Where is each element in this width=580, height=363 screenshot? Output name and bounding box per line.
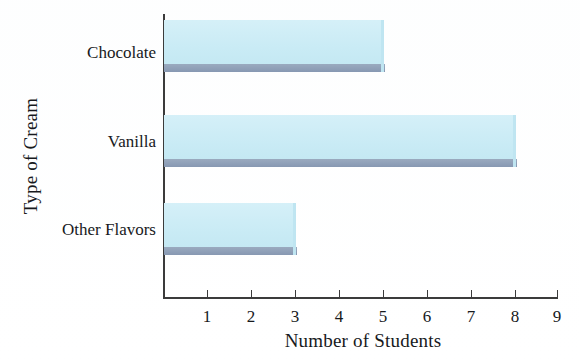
bar-other-flavors-cap: [293, 203, 296, 255]
category-label-chocolate: Chocolate: [36, 44, 156, 61]
x-tick-2: [251, 290, 252, 299]
category-label-vanilla: Vanilla: [36, 133, 156, 150]
x-tick-label-5: 5: [368, 307, 398, 327]
bar-chart: Type of Cream Chocolate Vanilla Other Fl…: [0, 0, 580, 363]
x-tick-label-8: 8: [500, 307, 530, 327]
plot-area: 1 2 3 4 5 6 7 8 9: [163, 14, 563, 299]
bar-other-flavors: [164, 203, 296, 255]
bar-vanilla-shadow: [164, 159, 517, 167]
x-tick-5: [383, 290, 384, 299]
x-tick-7: [471, 290, 472, 299]
x-tick-label-7: 7: [456, 307, 486, 327]
x-tick-4: [339, 290, 340, 299]
x-tick-label-6: 6: [412, 307, 442, 327]
x-axis-title: Number of Students: [163, 330, 563, 352]
x-tick-label-4: 4: [324, 307, 354, 327]
x-tick-3: [295, 290, 296, 299]
x-tick-label-2: 2: [236, 307, 266, 327]
category-label-group: Chocolate Vanilla Other Flavors: [32, 0, 156, 310]
x-tick-9: [557, 290, 558, 299]
bar-chocolate: [164, 20, 384, 72]
x-tick-label-9: 9: [542, 307, 572, 327]
bar-vanilla: [164, 115, 516, 167]
bar-other-flavors-shadow: [164, 247, 297, 255]
x-axis-line: [163, 297, 558, 299]
x-tick-label-3: 3: [280, 307, 310, 327]
bar-chocolate-cap: [381, 20, 384, 72]
x-tick-6: [427, 290, 428, 299]
x-tick-8: [515, 290, 516, 299]
x-tick-label-1: 1: [192, 307, 222, 327]
x-tick-1: [207, 290, 208, 299]
category-label-other-flavors: Other Flavors: [36, 221, 156, 238]
bar-chocolate-shadow: [164, 64, 385, 72]
bar-vanilla-cap: [513, 115, 516, 167]
